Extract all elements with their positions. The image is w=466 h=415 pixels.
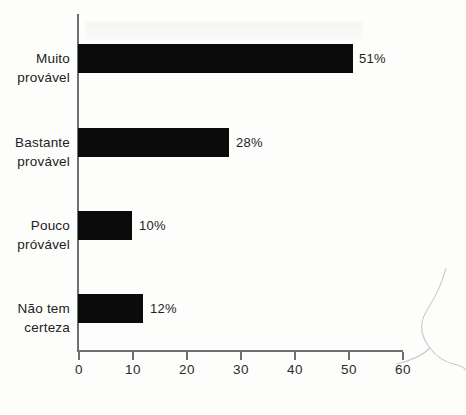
bar-value-nao-tem-certeza: 12% [150,294,177,323]
x-tick-mark [186,352,188,360]
x-tick-label-60: 60 [383,362,423,377]
bar-nao-tem-certeza [78,294,143,323]
x-tick-mark [402,352,404,360]
category-label-line2: provável [0,152,70,171]
scan-ghost-band [86,22,362,40]
category-label-line1: Pouco [31,218,70,233]
x-tick-mark [78,352,80,360]
category-label-nao-tem-certeza: Não tem certeza [0,299,70,337]
bar-pouco-provavel [78,211,132,240]
bar-value-pouco-provavel: 10% [139,211,166,240]
x-tick-mark [294,352,296,360]
category-label-line2: certeza [0,318,70,337]
x-tick-mark [240,352,242,360]
horizontal-bar-chart: 0 10 20 30 40 50 60 Muito provável 51% B… [0,0,466,415]
x-tick-label-30: 30 [221,362,261,377]
x-tick-mark [348,352,350,360]
category-label-muito-provavel: Muito provável [0,49,70,87]
bar-muito-provavel [78,44,353,73]
bar-value-bastante-provavel: 28% [236,128,263,157]
category-label-line2: próvável [0,235,70,254]
x-tick-label-50: 50 [329,362,369,377]
category-label-pouco-provavel: Pouco próvável [0,216,70,254]
x-tick-label-20: 20 [167,362,207,377]
category-label-line2: provável [0,68,70,87]
x-tick-label-10: 10 [113,362,153,377]
category-label-line1: Muito [36,51,70,66]
x-tick-label-40: 40 [275,362,315,377]
bar-bastante-provavel [78,128,229,157]
x-tick-label-0: 0 [59,362,99,377]
scan-artifact-curve [396,268,466,415]
category-label-line1: Bastante [15,135,70,150]
x-tick-mark [132,352,134,360]
category-label-bastante-provavel: Bastante provável [0,133,70,171]
category-label-line1: Não tem [18,301,70,316]
bar-value-muito-provavel: 51% [359,44,386,73]
